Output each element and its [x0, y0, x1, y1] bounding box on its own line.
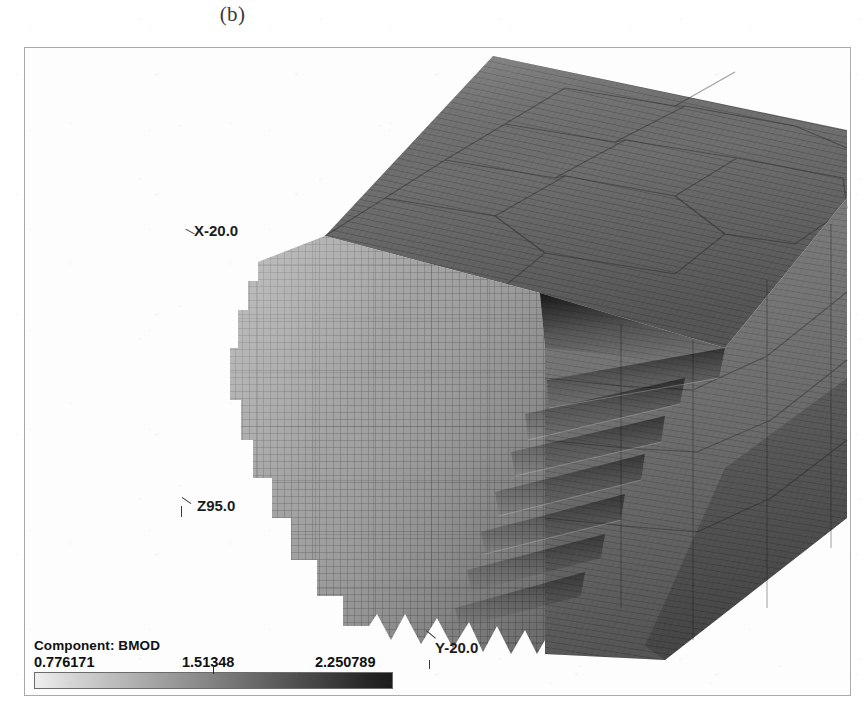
z-axis-tick-vertical	[181, 506, 182, 517]
color-legend: Component: BMOD 0.776171 1.51348 2.25078…	[34, 638, 434, 689]
plot-frame: X-20.0 Z95.0 Y-20.0 Component: BMOD 0.77…	[24, 47, 851, 696]
model-solid-svg	[25, 48, 850, 695]
z-axis-label: Z95.0	[197, 497, 235, 514]
model-front-face	[230, 236, 545, 654]
legend-max-value: 2.250789	[315, 654, 375, 670]
legend-tick-labels: 0.776171 1.51348 2.250789	[34, 654, 434, 672]
legend-min-value: 0.776171	[34, 654, 94, 670]
legend-color-bar	[34, 672, 393, 689]
model-viewport: X-20.0 Z95.0 Y-20.0	[25, 48, 850, 695]
x-axis-label: X-20.0	[194, 222, 238, 239]
legend-title: Component: BMOD	[34, 638, 434, 653]
figure-caption: (b)	[0, 2, 465, 27]
legend-mid-tick	[213, 666, 214, 674]
y-axis-label: Y-20.0	[435, 639, 478, 656]
legend-mid-value: 1.51348	[182, 654, 234, 670]
